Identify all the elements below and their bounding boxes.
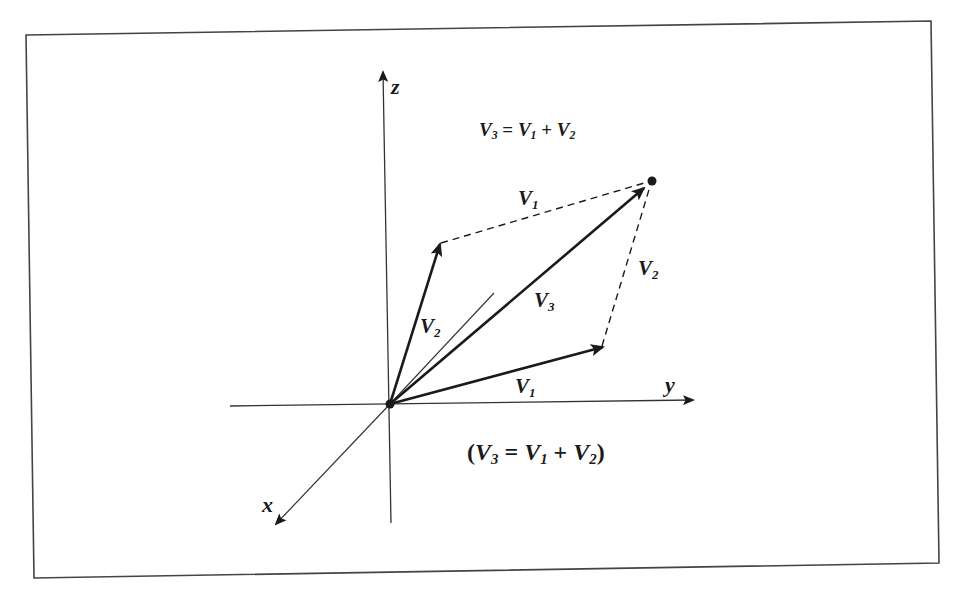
eq-top-term2: V [557,119,570,140]
y-axis [230,400,693,406]
origin-point [386,400,395,409]
eq-top-plus: + [536,119,556,140]
vector-addition-diagram [0,0,961,600]
v2-translated-label: V2 [638,258,659,279]
equation-caption: (V3 = V1 + V2) [467,440,605,464]
resultant-tip-point [648,177,657,186]
label-sub: 2 [652,267,659,282]
z-axis [383,72,391,523]
label-v: V [515,374,529,398]
x-axis [276,404,390,524]
eq-top-term1: V [518,119,531,140]
label-sub: 2 [434,325,441,340]
z-axis-label: z [391,76,400,98]
eq-caption-term1: V [524,439,540,465]
label-v: V [534,288,548,312]
eq-caption-term1-sub: 1 [540,451,547,467]
y-axis-label: y [665,374,675,396]
v3-label: V3 [534,290,555,311]
v1-label: V1 [515,376,536,397]
eq-caption-term2-sub: 2 [589,451,596,467]
eq-caption-plus: + [548,439,574,465]
eq-top-equals: = [498,119,518,140]
label-v: V [420,314,434,338]
projection-guide-line [390,293,494,404]
v2-label: V2 [420,316,441,337]
eq-caption-open-paren: ( [467,439,475,465]
eq-caption-term2: V [573,439,589,465]
x-axis-label: x [262,494,273,516]
label-v: V [638,256,652,280]
eq-caption-close-paren: ) [597,439,605,465]
equation-top: V3 = V1 + V2 [479,120,575,139]
label-sub: 1 [529,385,536,400]
eq-caption-lhs: V [475,439,491,465]
v1-translated-dashed [441,181,651,243]
v1-translated-label: V1 [518,188,539,209]
eq-top-term2-sub: 2 [570,129,576,142]
label-sub: 1 [532,197,539,212]
label-v: V [518,186,532,210]
eq-top-lhs: V [479,119,492,140]
v3-vector [390,188,644,404]
label-sub: 3 [548,299,555,314]
eq-caption-equals: = [498,439,524,465]
figure-frame [26,21,939,578]
